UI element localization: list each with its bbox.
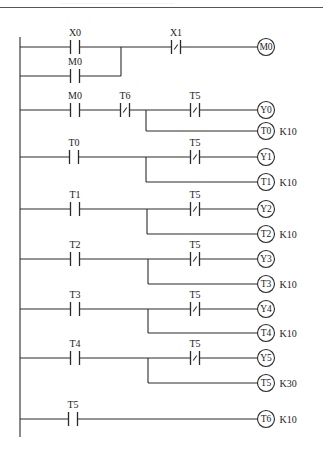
timer-preset: K30 [280,378,297,389]
rung-8: T5T6K10 [20,399,297,428]
timer-preset: K10 [280,229,297,240]
contact-label: T5 [189,338,200,349]
contact-t2-no: T2 [69,239,80,266]
coil-m0: M0 [258,39,275,56]
contact-label: T5 [67,399,78,410]
contact-m0-no: M0 [68,90,82,117]
contact-label: T5 [189,289,200,300]
contact-t3-no: T3 [69,289,80,316]
coil-label: M0 [259,42,272,52]
coil-label: T4 [261,328,272,338]
contact-label: X1 [170,27,182,38]
coil-y4: Y4 [258,301,275,318]
contact-t6-nc: T6 [119,90,130,117]
contact-label: T4 [69,338,80,349]
contact-t0-no: T0 [68,137,79,164]
rung-1: X0X1M0M0 [20,27,275,83]
contact-label: T2 [69,239,80,250]
contact-label: M0 [68,56,82,67]
coil-label: Y5 [260,353,272,363]
contact-label: T3 [69,289,80,300]
timer-preset: K10 [280,414,297,425]
contact-label: T0 [68,137,79,148]
coil-label: Y3 [260,254,272,264]
contact-t4-no: T4 [69,338,80,365]
coil-label: Y2 [260,204,272,214]
contact-t5-nc: T5 [189,338,200,365]
contact-t1-no: T1 [69,189,80,216]
contact-label: M0 [68,90,82,101]
ladder-diagram: ………………………………………………… X0X1M0M0M0T6T5Y0T0K1… [0,0,323,458]
coil-label: T5 [261,378,272,388]
contact-m0-seal-in: M0 [68,56,82,83]
coil-label: T6 [261,414,272,424]
nc-slash [193,108,197,113]
contact-x1-nc: X1 [170,27,182,54]
coil-label: T2 [261,229,272,239]
coil-label: Y0 [260,105,272,115]
coil-label: T1 [261,177,272,187]
coil-label: Y1 [260,152,272,162]
coil-label: Y4 [260,304,272,314]
coil-t2: T2K10 [258,226,297,243]
rung-7: T4T5Y5T5K30 [20,338,297,392]
timer-preset: K10 [280,279,297,290]
contact-t5-nc: T5 [189,289,200,316]
nc-slash [193,307,197,312]
coil-label: T0 [261,126,272,136]
coil-t5: T5K30 [258,375,297,392]
contact-t5-nc: T5 [189,137,200,164]
contact-t5-nc: T5 [189,189,200,216]
rung-5: T2T5Y3T3K10 [20,239,297,293]
coil-y0: Y0 [258,102,275,119]
contact-t5-nc: T5 [189,90,200,117]
coil-y5: Y5 [258,350,275,367]
nc-slash [193,155,197,160]
rung-2: M0T6T5Y0T0K10 [20,90,297,140]
coil-t1: T1K10 [258,174,297,191]
coil-y3: Y3 [258,251,275,268]
nc-slash [193,207,197,212]
nc-slash [123,108,127,113]
rung-3: T0T5Y1T1K10 [20,137,297,191]
coil-y1: Y1 [258,149,275,166]
nc-slash [193,356,197,361]
contact-x0-no: X0 [69,27,81,54]
contact-label: T1 [69,189,80,200]
contact-t5-nc: T5 [189,239,200,266]
coil-t4: T4K10 [258,325,297,342]
contact-label: T5 [189,239,200,250]
contact-label: T5 [189,90,200,101]
rungs: X0X1M0M0M0T6T5Y0T0K10T0T5Y1T1K10T1T5Y2T2… [20,27,297,428]
timer-preset: K10 [280,177,297,188]
nc-slash [174,45,178,50]
coil-t0: T0K10 [258,123,297,140]
nc-slash [193,257,197,262]
rung-6: T3T5Y4T4K10 [20,289,297,342]
coil-label: T3 [261,279,272,289]
coil-y2: Y2 [258,201,275,218]
header-cut-text: ………………………………………………… [60,0,174,5]
contact-label: T5 [189,189,200,200]
contact-t5-no: T5 [67,399,78,426]
coil-t6: T6K10 [258,411,297,428]
contact-label: T6 [119,90,130,101]
timer-preset: K10 [280,126,297,137]
page-header: ………………………………………………… [0,0,323,8]
contact-label: X0 [69,27,81,38]
timer-preset: K10 [280,328,297,339]
contact-label: T5 [189,137,200,148]
coil-t3: T3K10 [258,276,297,293]
rung-4: T1T5Y2T2K10 [20,189,297,243]
